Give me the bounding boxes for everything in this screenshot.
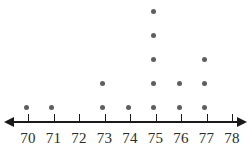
data-dot xyxy=(151,57,156,62)
data-dot xyxy=(177,81,182,86)
data-dot xyxy=(202,81,207,86)
x-axis-label-78: 78 xyxy=(218,130,246,147)
x-axis-label-74: 74 xyxy=(116,130,144,147)
x-axis-tick-78 xyxy=(232,114,233,122)
x-axis-tick-70 xyxy=(28,114,29,122)
x-axis-tick-75 xyxy=(156,114,157,122)
data-dot xyxy=(100,105,105,110)
dot-plot-figure: 707172737475767778 xyxy=(0,0,251,151)
x-axis-right-arrow-icon xyxy=(237,117,247,127)
data-dot xyxy=(151,9,156,14)
x-axis-tick-73 xyxy=(105,114,106,122)
x-axis-tick-71 xyxy=(54,114,55,122)
x-axis-left-arrow-icon xyxy=(4,117,14,127)
data-dot xyxy=(177,105,182,110)
data-dot xyxy=(126,105,131,110)
x-axis-tick-74 xyxy=(130,114,131,122)
x-axis-label-77: 77 xyxy=(193,130,221,147)
x-axis-label-72: 72 xyxy=(65,130,93,147)
x-axis-label-73: 73 xyxy=(91,130,119,147)
x-axis-label-75: 75 xyxy=(142,130,170,147)
x-axis-label-76: 76 xyxy=(167,130,195,147)
x-axis-tick-76 xyxy=(181,114,182,122)
data-dot xyxy=(151,33,156,38)
data-dot xyxy=(24,105,29,110)
data-dot xyxy=(151,81,156,86)
x-axis-tick-72 xyxy=(79,114,80,122)
x-axis-label-71: 71 xyxy=(40,130,68,147)
data-dot xyxy=(151,105,156,110)
data-dot xyxy=(100,81,105,86)
data-dot xyxy=(202,105,207,110)
data-dot xyxy=(49,105,54,110)
x-axis-tick-77 xyxy=(207,114,208,122)
x-axis-label-70: 70 xyxy=(14,130,42,147)
data-dot xyxy=(202,57,207,62)
